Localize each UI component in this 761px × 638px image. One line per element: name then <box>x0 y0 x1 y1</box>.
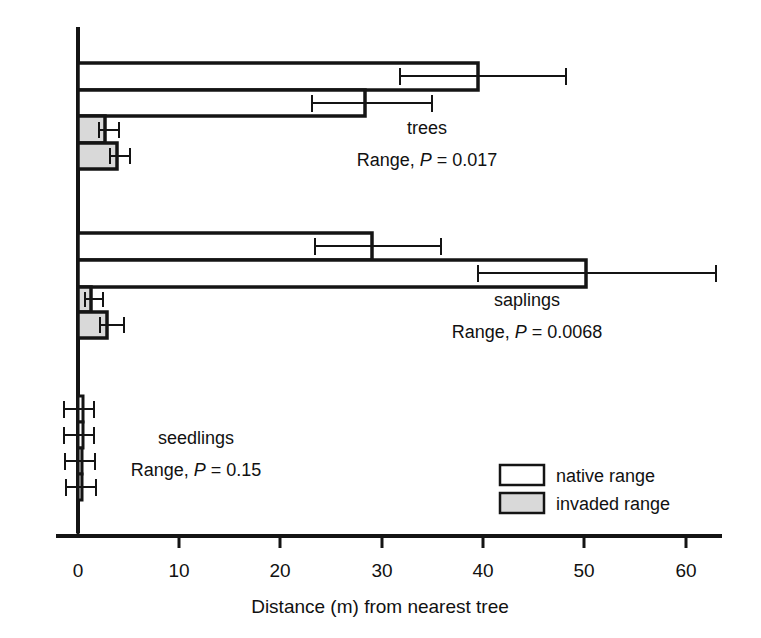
tick-label-0: 0 <box>73 560 84 581</box>
group-saplings: saplings Range, P = 0.0068 <box>78 233 716 342</box>
annotation-trees-p-number: = 0.017 <box>432 150 498 170</box>
tick-label-40: 40 <box>472 560 493 581</box>
bar-chart-svg: 0 10 20 30 40 50 60 Distance (m) from ne… <box>0 0 761 638</box>
annotation-trees-label: trees <box>407 118 447 138</box>
annotation-trees-p-symbol: P <box>420 150 432 170</box>
annotation-seedlings-label: seedlings <box>158 428 234 448</box>
tick-label-60: 60 <box>675 560 696 581</box>
bar-seedlings-invaded-2[interactable] <box>66 474 96 500</box>
bar-trees-invaded-1[interactable] <box>78 116 119 143</box>
bar-seedlings-native-1[interactable] <box>64 396 94 422</box>
annotation-saplings-label: saplings <box>494 290 560 310</box>
annotation-seedlings-range-text: Range, <box>131 460 194 480</box>
bar-saplings-native-1[interactable] <box>78 233 441 260</box>
bar-seedlings-invaded-1[interactable] <box>65 448 95 474</box>
group-seedlings: seedlings Range, P = 0.15 <box>64 396 261 500</box>
bar-trees-native-2[interactable] <box>78 90 432 116</box>
bar-seedlings-native-2[interactable] <box>64 422 94 448</box>
chart-legend: native range invaded range <box>500 465 670 514</box>
legend-swatch-invaded <box>500 493 544 513</box>
annotation-trees-range-text: Range, <box>357 150 420 170</box>
annotation-seedlings-p-number: = 0.15 <box>206 460 262 480</box>
annotation-saplings-pvalue: Range, P = 0.0068 <box>452 322 603 342</box>
annotation-trees-pvalue: Range, P = 0.017 <box>357 150 498 170</box>
bar-saplings-invaded-1[interactable] <box>78 287 103 312</box>
legend-label-invaded: invaded range <box>556 494 670 514</box>
legend-label-native: native range <box>556 466 655 486</box>
annotation-saplings-p-number: = 0.0068 <box>527 322 603 342</box>
legend-swatch-native <box>500 465 544 485</box>
annotation-seedlings-pvalue: Range, P = 0.15 <box>131 460 262 480</box>
bar-trees-native-1[interactable] <box>78 63 566 90</box>
group-trees: trees Range, P = 0.017 <box>78 63 566 170</box>
x-axis-ticks: 0 10 20 30 40 50 60 <box>73 521 697 581</box>
tick-label-50: 50 <box>573 560 594 581</box>
tick-label-10: 10 <box>168 560 189 581</box>
legend-item-invaded[interactable]: invaded range <box>500 493 670 514</box>
bar-saplings-invaded-2[interactable] <box>78 312 124 338</box>
legend-item-native[interactable]: native range <box>500 465 655 486</box>
tick-label-20: 20 <box>269 560 290 581</box>
annotation-saplings-p-symbol: P <box>515 322 527 342</box>
x-axis-title: Distance (m) from nearest tree <box>251 596 509 617</box>
bar-saplings-native-2[interactable] <box>78 260 716 287</box>
annotation-seedlings-p-symbol: P <box>194 460 206 480</box>
annotation-saplings-range-text: Range, <box>452 322 515 342</box>
bar-trees-invaded-2[interactable] <box>78 143 130 169</box>
tick-label-30: 30 <box>371 560 392 581</box>
chart-container: 0 10 20 30 40 50 60 Distance (m) from ne… <box>0 0 761 638</box>
